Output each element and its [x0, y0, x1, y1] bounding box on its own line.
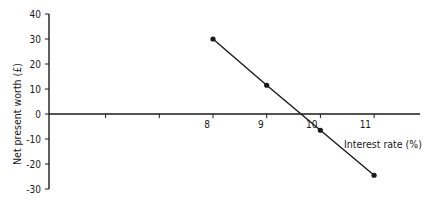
y-tick-label: 40: [30, 9, 42, 20]
x-tick-label: 11: [360, 119, 371, 130]
data-point-marker: [264, 83, 269, 88]
y-tick-label: 30: [30, 34, 42, 45]
y-axis: 403020100-10-20-30: [26, 9, 49, 195]
x-tick-label: 8: [204, 119, 210, 130]
y-tick-label: 10: [30, 84, 42, 95]
data-point-marker: [318, 128, 323, 133]
data-point-marker: [210, 36, 215, 41]
x-tick-label: 9: [258, 119, 264, 130]
data-series: [210, 36, 376, 177]
x-tick-label: 10: [306, 119, 318, 130]
y-tick-label: 20: [30, 59, 42, 70]
series-line: [213, 39, 374, 175]
y-axis-label: Net present worth (£): [11, 63, 23, 165]
y-tick-label: -10: [26, 134, 41, 145]
y-tick-label: 0: [35, 109, 41, 120]
x-axis: 891011: [49, 114, 420, 130]
y-tick-label: -20: [26, 159, 41, 170]
npv-chart: 403020100-10-20-30 891011 Net present wo…: [0, 0, 426, 207]
data-point-marker: [372, 173, 377, 178]
y-tick-label: -30: [26, 184, 41, 195]
x-axis-label: Interest rate (%): [344, 138, 422, 150]
